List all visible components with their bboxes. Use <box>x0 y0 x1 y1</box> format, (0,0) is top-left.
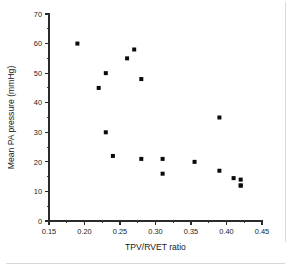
data-point <box>111 154 115 158</box>
x-axis-title: TPV/RVET ratio <box>125 242 186 252</box>
y-tick-label: 60 <box>34 39 42 48</box>
data-point <box>217 169 221 173</box>
data-point <box>239 184 243 188</box>
y-axis-title: Mean PA pressure (mmHg) <box>6 66 16 170</box>
x-tick-label: 0.40 <box>219 227 233 236</box>
y-tick-label: 50 <box>34 69 42 78</box>
data-point <box>193 160 197 164</box>
data-point <box>232 176 236 180</box>
y-tick-label: 40 <box>34 98 42 107</box>
data-points-layer <box>75 42 242 188</box>
data-point <box>97 86 101 90</box>
x-tick-label: 0.35 <box>184 227 198 236</box>
data-point <box>104 130 108 134</box>
scatter-plot: 010203040506070 0.150.200.250.300.350.40… <box>0 0 291 267</box>
data-point <box>139 77 143 81</box>
data-point <box>239 178 243 182</box>
y-tick-label: 10 <box>34 187 42 196</box>
y-tick-label: 30 <box>34 128 42 137</box>
data-point <box>104 71 108 75</box>
x-tick-label: 0.45 <box>255 227 269 236</box>
x-axis: 0.150.200.250.300.350.400.45 <box>42 221 269 236</box>
x-tick-label: 0.20 <box>77 227 91 236</box>
data-point <box>125 56 129 60</box>
y-axis: 010203040506070 <box>34 10 49 226</box>
data-point <box>75 42 79 46</box>
y-tick-label: 70 <box>34 10 42 19</box>
y-tick-label: 0 <box>38 217 42 226</box>
x-tick-label: 0.15 <box>42 227 56 236</box>
data-point <box>217 116 221 120</box>
x-tick-label: 0.25 <box>113 227 127 236</box>
data-point <box>132 47 136 51</box>
data-point <box>161 157 165 161</box>
data-point <box>161 172 165 176</box>
x-tick-label: 0.30 <box>148 227 162 236</box>
y-tick-label: 20 <box>34 158 42 167</box>
figure-canvas: 010203040506070 0.150.200.250.300.350.40… <box>0 0 291 267</box>
data-point <box>139 157 143 161</box>
